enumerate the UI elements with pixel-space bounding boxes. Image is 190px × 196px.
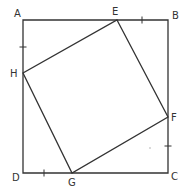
label-g: G: [68, 177, 76, 188]
outer-square-abcd: [23, 20, 168, 173]
label-a: A: [14, 8, 21, 19]
stray-dot: [149, 147, 150, 148]
label-d: D: [12, 172, 20, 183]
label-f: F: [171, 112, 177, 123]
inner-quadrilateral-efgh: [23, 20, 168, 173]
label-h: H: [10, 68, 18, 79]
equal-length-tick-marks: [20, 17, 172, 177]
label-e: E: [112, 6, 118, 17]
geometry-diagram: A B C D E F G H: [0, 0, 190, 196]
label-b: B: [172, 10, 179, 21]
label-c: C: [171, 171, 178, 182]
